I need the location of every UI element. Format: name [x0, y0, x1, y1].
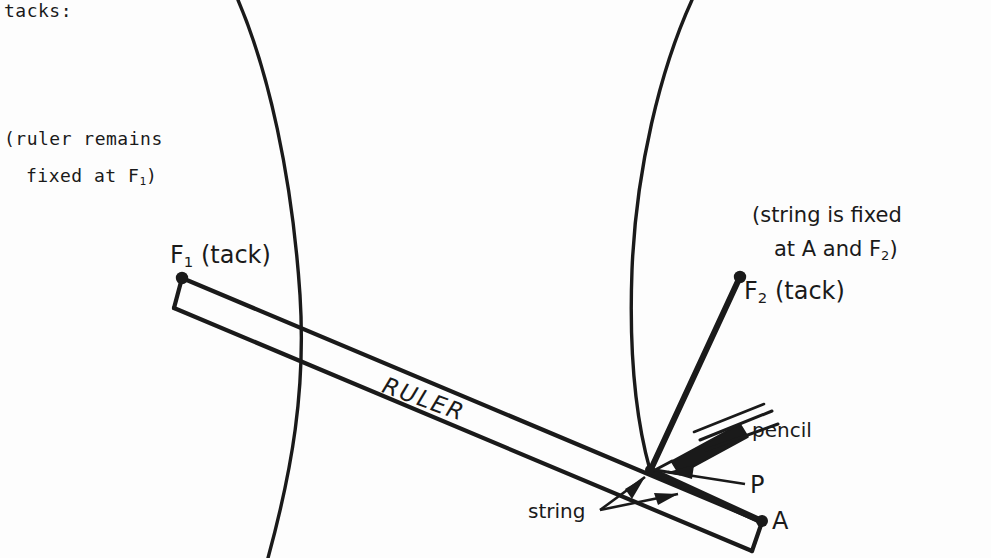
- string-note-line-1: (string is fixed: [752, 200, 902, 230]
- f1-letter: F: [170, 241, 184, 269]
- string-note-line-2: at A and F2): [774, 234, 898, 266]
- ruler-note-text: fixed at F: [26, 165, 139, 186]
- f1-tack-text: (tack): [193, 241, 271, 269]
- f1-subscript: 1: [184, 253, 193, 271]
- string-label: string: [528, 497, 585, 526]
- f2-subscript: 2: [758, 289, 767, 307]
- ruler-note-line-2: fixed at F1): [26, 163, 157, 190]
- tacks-label: tacks:: [4, 0, 72, 24]
- pencil-label: pencil: [752, 416, 812, 445]
- point-a-label: A: [772, 504, 788, 539]
- string-note-text: at A and F: [774, 237, 881, 261]
- f2-letter: F: [744, 277, 758, 305]
- hyperbola-construction-figure: tacks: (ruler remains fixed at F1) F1 (t…: [0, 0, 991, 558]
- point-p-label: P: [750, 468, 764, 503]
- f1-label: F1 (tack): [170, 238, 271, 274]
- f2-label: F2 (tack): [744, 274, 845, 310]
- hyperbola-left-branch-curve: [238, 0, 301, 558]
- f2-tack-text: (tack): [767, 277, 845, 305]
- ruler-note-line-1: (ruler remains: [4, 126, 163, 152]
- ruler-note-paren: ): [146, 165, 157, 186]
- string-note-paren: ): [889, 237, 897, 261]
- point-dot-a: [756, 515, 768, 527]
